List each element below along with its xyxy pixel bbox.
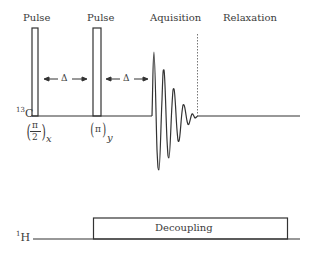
proton-nucleus-label: 1H bbox=[16, 230, 30, 244]
acquisition-label: Aquisition bbox=[150, 12, 201, 23]
right-paren: ) bbox=[102, 119, 106, 139]
delay-2-symbol: Δ bbox=[123, 73, 130, 83]
phase-denominator: 2 bbox=[32, 132, 38, 142]
phase-axis: x bbox=[46, 133, 52, 144]
delay-1-symbol: Δ bbox=[61, 73, 68, 83]
fid-signal bbox=[152, 52, 198, 170]
carbon-mass-number: 13 bbox=[16, 106, 25, 114]
pulse-180y bbox=[93, 28, 101, 116]
pulse-1-phase: ( π 2 ) x bbox=[25, 118, 55, 146]
left-paren: ( bbox=[90, 119, 94, 139]
pulse-2-phase: ( π ) y bbox=[89, 118, 119, 146]
decoupling-label: Decoupling bbox=[155, 222, 213, 233]
pulse-1-label: Pulse bbox=[23, 12, 50, 23]
relaxation-label: Relaxation bbox=[223, 12, 277, 23]
pulse-2-label: Pulse bbox=[87, 12, 114, 23]
proton-symbol: H bbox=[20, 231, 30, 244]
phase-axis: y bbox=[107, 132, 113, 143]
phase-value: π bbox=[95, 124, 101, 134]
phase-numerator: π bbox=[32, 120, 38, 130]
pulse-90x bbox=[32, 28, 38, 116]
